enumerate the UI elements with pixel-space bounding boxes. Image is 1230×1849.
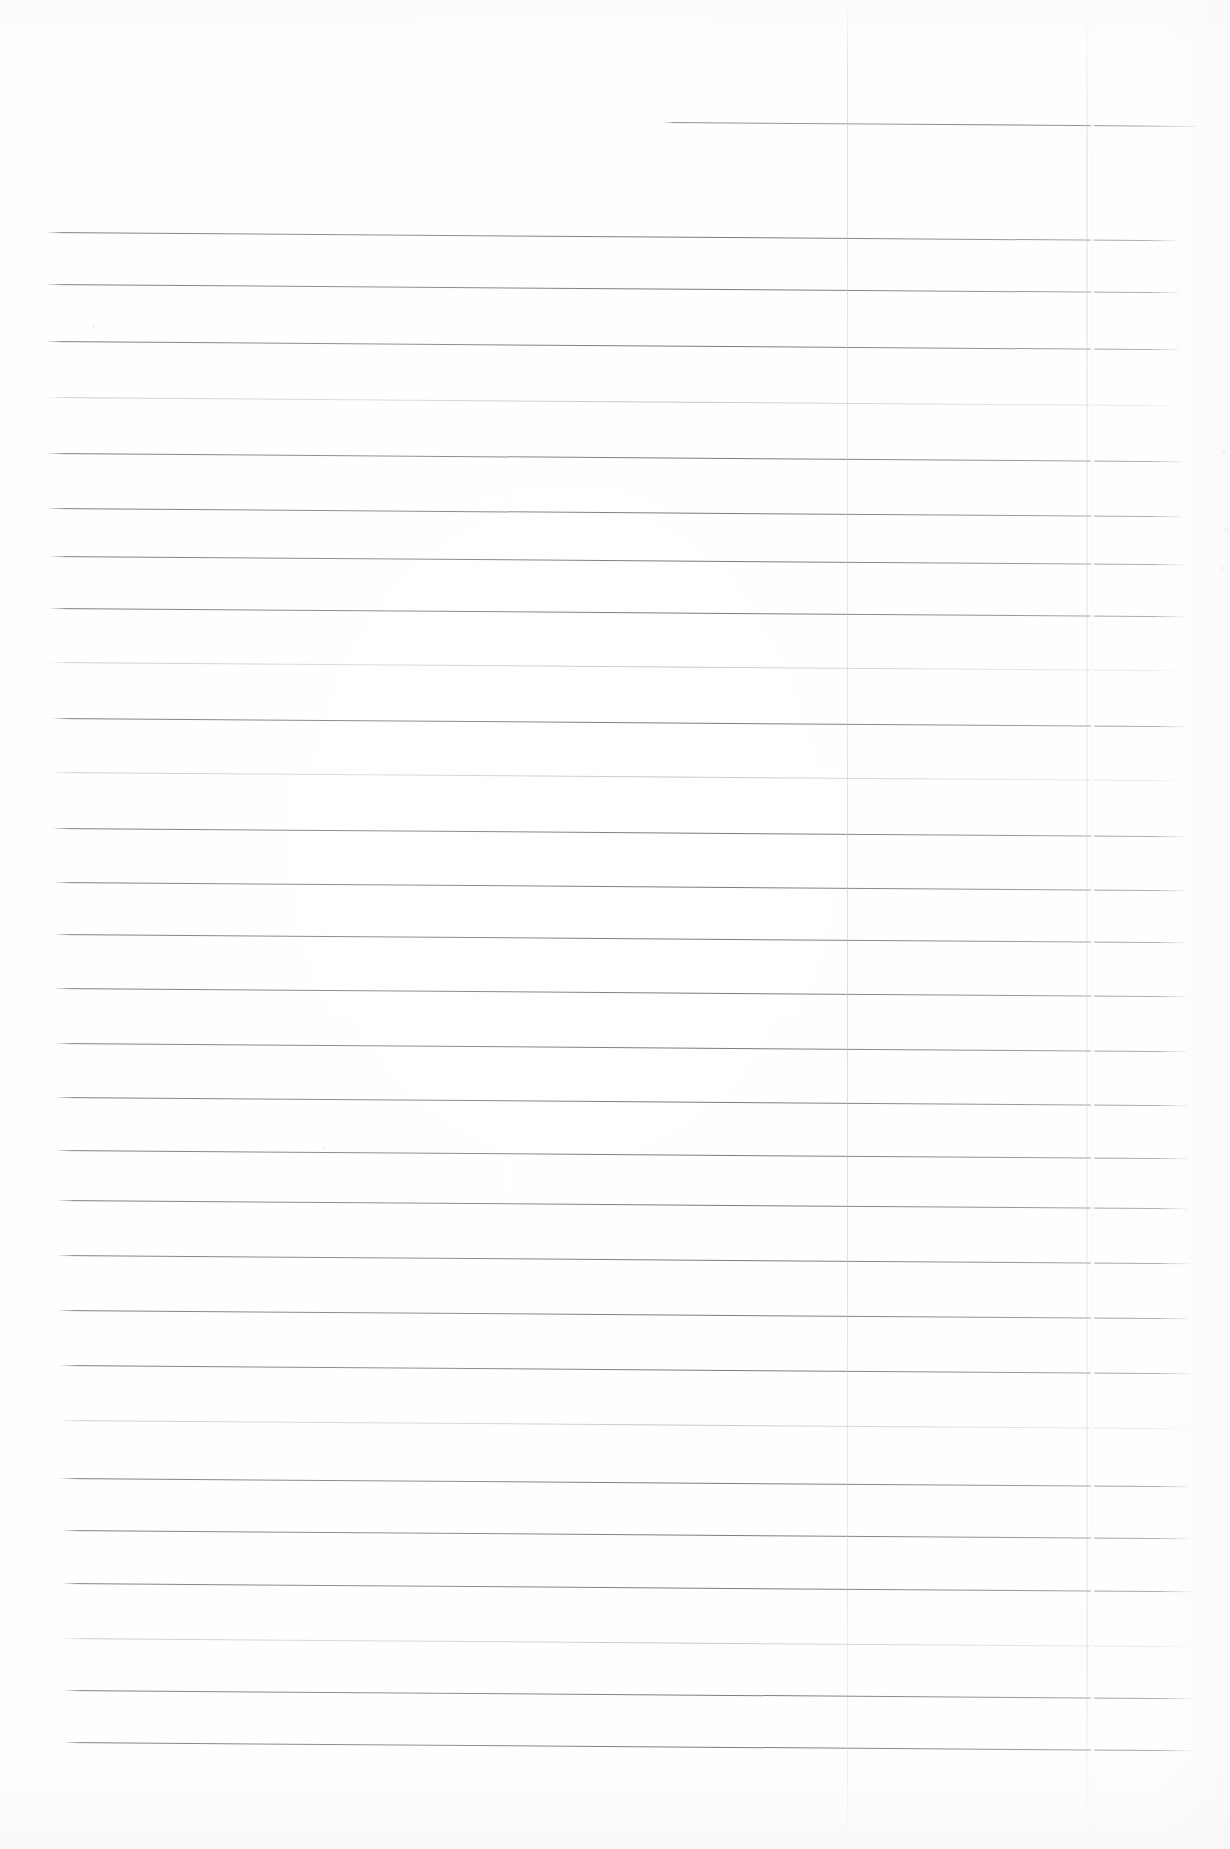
scan-speck bbox=[855, 1818, 858, 1821]
page-edge-shade-bottom bbox=[0, 1759, 1230, 1849]
scan-speck bbox=[1221, 566, 1225, 570]
page-edge-shade-top bbox=[0, 0, 1230, 50]
scan-speck bbox=[1222, 451, 1226, 455]
writing-area[interactable] bbox=[55, 230, 1175, 1750]
scan-speck bbox=[1224, 528, 1229, 533]
scanned-page bbox=[0, 0, 1230, 1849]
ruled-line-partial bbox=[664, 122, 1196, 127]
